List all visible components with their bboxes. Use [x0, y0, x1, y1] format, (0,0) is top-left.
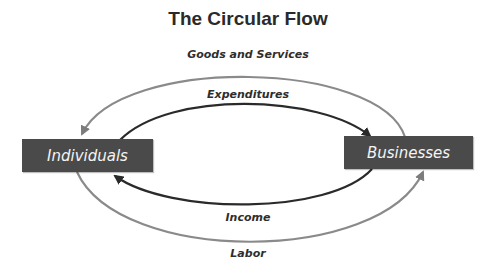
businesses-box: Businesses — [344, 136, 473, 169]
individuals-box: Individuals — [22, 139, 153, 172]
expenditures-label: Expenditures — [158, 88, 338, 101]
individuals-label: Individuals — [47, 147, 128, 165]
income-label: Income — [198, 211, 298, 224]
goods-services-label: Goods and Services — [148, 48, 348, 61]
expenditures-arrow — [120, 104, 370, 140]
businesses-label: Businesses — [367, 144, 450, 162]
diagram-title: The Circular Flow — [0, 8, 496, 30]
income-arrow — [115, 169, 372, 204]
labor-arrow — [77, 172, 423, 242]
labor-label: Labor — [208, 247, 288, 260]
